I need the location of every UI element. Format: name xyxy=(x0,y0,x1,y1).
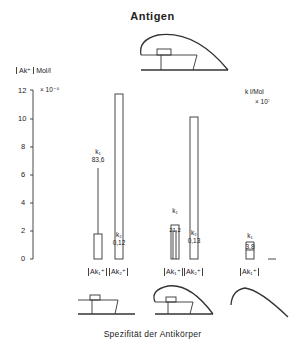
g1-k2-value: 0,12 xyxy=(107,239,131,246)
chart-graphics xyxy=(0,0,305,352)
bar-g1-ak1 xyxy=(94,234,102,259)
g2-k2-label: k₂ xyxy=(182,229,206,236)
g2-ak2-label: Ak₂⁺ xyxy=(184,268,203,276)
antigen-shape xyxy=(141,34,228,70)
g1-k2-label: k₂ xyxy=(107,231,131,238)
g3-k1-value: 3,8 xyxy=(238,243,262,250)
bar-g3-ak1 xyxy=(246,250,254,259)
g2-k1-label: k₁ xyxy=(163,207,187,214)
x-axis-label: Spezifität der Antikörper xyxy=(0,329,305,339)
g3-ak1-label: Ak₁⁺ xyxy=(240,268,259,276)
g1-ak2-label: Ak₂⁺ xyxy=(109,268,128,276)
g3-k1-label: k₁ xyxy=(238,232,262,239)
g2-k2-value: 0,13 xyxy=(182,237,206,244)
g1-k1-value: 83,6 xyxy=(86,156,110,163)
g1-k1-label: k₁ xyxy=(86,148,110,155)
g2-ak1-label: Ak₁⁺ xyxy=(164,268,183,276)
g1-ak1-label: Ak₁⁺ xyxy=(88,268,107,276)
